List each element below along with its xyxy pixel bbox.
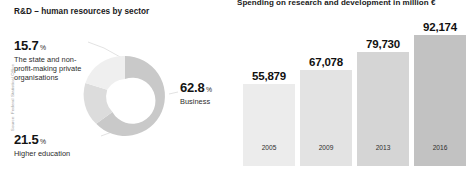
leader-line-business bbox=[169, 92, 178, 94]
bar-value-2005: 55,879 bbox=[243, 70, 295, 82]
donut-desc-higher-education: Higher education bbox=[14, 149, 100, 158]
bar-value-2009: 67,078 bbox=[300, 56, 352, 68]
bar-year-2005: 2005 bbox=[243, 144, 295, 151]
bar-year-2016: 2016 bbox=[414, 144, 466, 151]
percent-sign-icon: % bbox=[206, 86, 212, 93]
percent-sign-icon: % bbox=[40, 138, 46, 145]
leader-line-state bbox=[88, 42, 122, 58]
donut-desc-state-nonprofit: The state and non-profit-making private … bbox=[14, 55, 88, 82]
bar-year-2009: 2009 bbox=[300, 144, 352, 151]
bar-value-2013: 79,730 bbox=[357, 38, 409, 50]
donut-label-higher-education: 21.5% Higher education bbox=[14, 130, 100, 158]
bar-year-2013: 2013 bbox=[357, 144, 409, 151]
donut-value-state-nonprofit: 15.7 bbox=[14, 38, 39, 53]
percent-sign-icon: % bbox=[40, 44, 46, 51]
donut-segment-state-nonprofit bbox=[85, 56, 125, 90]
bar-2005 bbox=[243, 84, 295, 166]
bar-chart-panel: Spending on research and development in … bbox=[235, 0, 471, 174]
donut-desc-business: Business bbox=[180, 97, 240, 106]
donut-value-business: 62.8 bbox=[180, 80, 205, 95]
donut-label-state-nonprofit: 15.7% The state and non-profit-making pr… bbox=[14, 36, 88, 82]
donut-label-business: 62.8% Business bbox=[180, 78, 240, 106]
donut-chart-panel: R&D – human resources by sector Source: … bbox=[0, 0, 235, 174]
bar-2009 bbox=[300, 70, 352, 166]
bar-value-2016: 92,174 bbox=[414, 21, 466, 33]
donut-value-higher-education: 21.5 bbox=[14, 132, 39, 147]
